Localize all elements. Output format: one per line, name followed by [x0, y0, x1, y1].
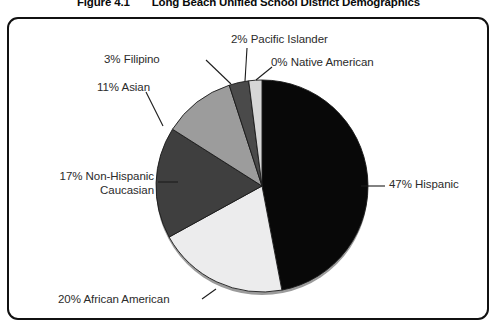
- leader-line-native-american: [256, 67, 272, 80]
- leader-line-african-american: [202, 289, 216, 299]
- slice-label-asian: 11% Asian: [97, 81, 150, 95]
- pie-slice-hispanic: [262, 80, 368, 290]
- slice-label-caucasian-line2: Caucasian: [100, 184, 154, 196]
- leader-line-pacific-islander: [245, 48, 247, 81]
- leader-line-asian: [146, 92, 163, 126]
- slice-label-hispanic: 47% Hispanic: [389, 178, 459, 192]
- slice-label-caucasian-line1: 17% Non-Hispanic: [60, 170, 154, 182]
- slice-label-pacific-islander: 2% Pacific Islander: [231, 33, 328, 47]
- slice-label-native-american: 0% Native American: [271, 56, 374, 70]
- slice-label-african-american: 20% African American: [58, 293, 170, 307]
- pie-chart: [0, 0, 497, 328]
- leader-line-filipino: [206, 60, 231, 84]
- pie-slice-group: [156, 80, 368, 295]
- slice-label-non-hispanic-caucasian: 17% Non-Hispanic Caucasian: [19, 170, 154, 197]
- slice-label-filipino: 3% Filipino: [104, 53, 160, 67]
